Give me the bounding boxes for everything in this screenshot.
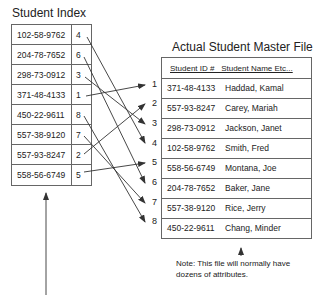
arrow-2 (84, 104, 145, 154)
master-note: Note: This file will normally have dozen… (176, 258, 316, 280)
arrow-1 (86, 85, 145, 96)
pointer-arrows (0, 0, 322, 295)
arrow-5 (84, 163, 145, 172)
arrow-3 (85, 77, 145, 124)
